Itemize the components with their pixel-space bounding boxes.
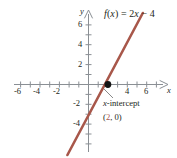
coordinate-plane [0,0,177,158]
x-intercept-annotation-label: x-intercept [103,99,140,108]
y-tick-label-6: 6 [78,20,82,29]
annotation-leader-line [104,89,113,98]
y-tick-label-2: 2 [78,60,82,69]
y-axis-label: y [80,7,84,16]
x-tick-label--4: -4 [33,87,40,96]
y-tick-label--2: -2 [73,99,80,108]
graph-figure: f(x) = 2x − 4 y x -6 -4 -2 4 6 6 4 2 -2 … [0,0,177,158]
y-tick-label--4: -4 [73,119,80,128]
x-intercept-coordinate-label: (2, 0) [103,113,122,122]
annotation-rest: -intercept [107,98,140,108]
x-tick-label--2: -2 [53,87,60,96]
equation-var2: x [134,8,139,19]
x-tick-label-6: 6 [144,87,148,96]
y-tick-label-4: 4 [78,40,82,49]
x-intercept-point [105,81,112,88]
function-equation-label: f(x) = 2x − 4 [104,9,155,19]
x-tick-label-4: 4 [125,87,129,96]
x-tick-label--6: -6 [14,87,21,96]
coord-close-paren: ) [119,112,122,122]
equation-const: 4 [150,8,155,19]
x-axis-label: x [167,86,171,95]
equation-fname: f [104,8,107,19]
equation-var: x [110,8,115,19]
